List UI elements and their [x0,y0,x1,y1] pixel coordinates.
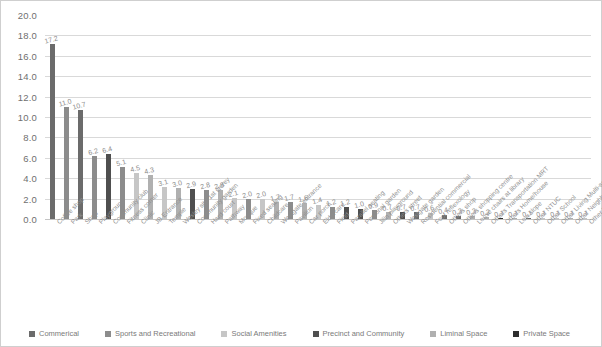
x-axis-tick-label: Other NTUC [532,221,537,226]
legend-swatch-icon [105,331,111,337]
x-axis-tick-label: Others Home/house [504,221,509,226]
bar-value-label: 3.0 [171,179,182,188]
bar-slot: 0.2 [479,15,493,219]
bar-value-label: 11.0 [58,97,72,107]
y-axis-tick-label: 10.0 [18,112,37,123]
y-axis-tick-label: 16.0 [18,50,37,61]
bar-value-label: 3.1 [157,178,168,187]
legend-label: Liminal Space [440,329,487,338]
y-axis-tick-label: 0.0 [23,214,37,225]
x-axis-tick-label: Playground [98,221,103,226]
bar-slot: 0.7 [409,15,423,219]
bar-value-label: 6.2 [87,147,98,156]
bar-slot: 11.0 [59,15,73,219]
bar-slot: 5.1 [115,15,129,219]
legend-item[interactable]: Liminal Space [430,329,487,338]
legend-label: Private Space [523,329,570,338]
y-axis: 20.018.016.014.012.010.08.06.04.02.00.0 [1,15,41,219]
bar-value-label: 2.8 [199,181,210,190]
x-axis-tick-label: Car porch [308,221,313,226]
x-axis-tick-label: Clinic [140,221,145,226]
x-axis-tick-label: Field [336,221,341,226]
x-axis-tick-label: Hard court [210,221,215,226]
legend-swatch-icon [430,331,436,337]
bar-slot: 0.1 [563,15,577,219]
bar-slot: 1.2 [339,15,353,219]
x-axis-tick-label: Other Library [588,221,593,226]
x-axis-tick-label: Westgate entrance [280,221,285,226]
bar-slot: 0.1 [577,15,591,219]
bar-value-label: 2.0 [241,190,252,199]
bar-value-label: 2.0 [255,190,266,199]
legend-item[interactable]: Commerical [29,329,79,338]
y-axis-tick-label: 8.0 [23,132,37,143]
bar-holder: 11.0 [64,107,69,219]
legend-item[interactable]: Sports and Recreational [105,329,195,338]
bar-value-label: 10.7 [72,100,87,110]
bar-slot: 6.4 [101,15,115,219]
bar-value-label: 17.2 [44,34,59,44]
x-axis-tick-label: Other Living Multi-service centre [560,221,565,226]
bar-value-label: 4.5 [129,164,140,173]
bar-value-label: 1.4 [311,196,322,205]
x-axis-tick-label: Foot reflexology [434,221,439,226]
x-axis-tick-label: Community garden [196,221,201,226]
x-axis-tick-label: Low slope [518,221,523,226]
bar-slot: 3.1 [157,15,171,219]
bar-slot: 2.0 [241,15,255,219]
bar-value-label: 1.7 [283,193,294,202]
x-axis-tick-label: Others Transportation MRT [490,221,495,226]
x-axis-tick-label: Personal garden [364,221,369,226]
bar-slot: 2.0 [255,15,269,219]
x-axis-tick-label: Others shop [448,221,453,226]
bar-chart: 20.018.016.014.012.010.08.06.04.02.00.0 … [0,0,602,347]
bar[interactable] [50,44,55,219]
x-axis-tick-label: Others shopping centre [462,221,467,226]
x-axis-tick-label: Fixed seating [252,221,257,226]
bar-slot: 0.6 [423,15,437,219]
legend-item[interactable]: Private Space [513,329,570,338]
legend-label: Precinct and Community [323,329,405,338]
x-axis-tick-label: Loose chairs at library [476,221,481,226]
bar-slot: 1.7 [283,15,297,219]
x-axis-tick-label: Community club [112,221,117,226]
y-axis-tick-label: 2.0 [23,193,37,204]
bar-slot: 17.2 [45,15,59,219]
bar-holder: 17.2 [50,44,55,219]
x-axis-tick-label: Pathway [224,221,229,226]
legend-item[interactable]: Social Amenities [221,329,286,338]
legend-swatch-icon [313,331,319,337]
x-axis-tick-label: Childcare [266,221,271,226]
bar-slot: 0.7 [381,15,395,219]
x-axis-tick-label: Coffee shop [56,221,61,226]
x-axis-tick-label: Park [70,221,75,226]
bar-slot: 1.6 [297,15,311,219]
bar-slot: 2.8 [199,15,213,219]
bar-slot: 0.1 [549,15,563,219]
x-axis-tick-label: Others street [392,221,397,226]
x-axis-tick-label: Parallel seating [350,221,355,226]
bar-slot: 1.0 [353,15,367,219]
x-axis-tick-label: Other School [546,221,551,226]
legend-swatch-icon [29,331,35,337]
y-axis-tick-label: 12.0 [18,91,37,102]
legend-label: Commerical [39,329,79,338]
x-axis-tick-label: Fitness corner [126,221,131,226]
bar-slot: 3.0 [171,15,185,219]
y-axis-tick-label: 14.0 [18,71,37,82]
legend-item[interactable]: Precinct and Community [313,329,405,338]
x-axis-tick-label: Westgate garden [406,221,411,226]
y-axis-tick-label: 4.0 [23,173,37,184]
legend-label: Social Amenities [231,329,286,338]
x-axis-tick-label: JB Entrance [154,221,159,226]
y-axis-tick-label: 6.0 [23,152,37,163]
bar-value-label: 4.3 [143,166,154,175]
bar-slot: 0.9 [367,15,381,219]
bar-value-label: 6.4 [101,145,112,154]
x-axis-tick-label: Wesley site 1st storey [182,221,187,226]
legend-swatch-icon [221,331,227,337]
legend-label: Sports and Recreational [115,329,195,338]
x-axis-tick-label: Mosque [238,221,243,226]
bar[interactable] [64,107,69,219]
bar-value-label: 5.1 [115,158,126,167]
